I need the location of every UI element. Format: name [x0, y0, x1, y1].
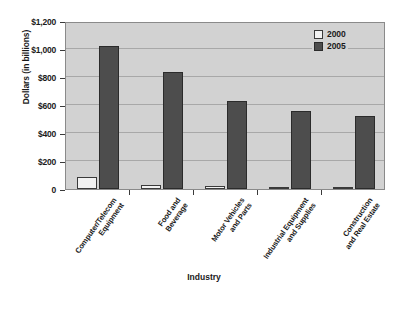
y-tick-label: $400 [4, 129, 56, 139]
bar-2005 [163, 72, 183, 189]
y-tick-label: $800 [4, 73, 56, 83]
x-category-label-line: Construction [312, 196, 374, 280]
legend-swatch [314, 30, 323, 39]
x-tick-mark [193, 190, 194, 195]
y-tick-label: $1,000 [4, 45, 56, 55]
bar-group [130, 23, 194, 189]
bar-2000 [333, 187, 353, 189]
y-tick-label: 0 [4, 185, 56, 195]
x-axis-title: Industry [0, 272, 408, 282]
y-tick-label: $200 [4, 157, 56, 167]
bar-chart: Dollars (in billions) $1,200$1,000$800$6… [0, 0, 408, 310]
bar-2000 [205, 186, 225, 189]
bar-2000 [269, 187, 289, 189]
legend-swatch [314, 42, 323, 51]
bar-2005 [99, 46, 119, 190]
legend-entry: 2005 [314, 40, 346, 52]
x-tick-mark [129, 190, 130, 195]
legend-label: 2000 [327, 29, 346, 39]
x-category-label-line: Computer/Telecom [56, 196, 118, 280]
bar-2005 [227, 101, 247, 189]
x-tick-mark [257, 190, 258, 195]
legend-label: 2005 [327, 41, 346, 51]
bar-2005 [355, 116, 375, 189]
bar-group [194, 23, 258, 189]
y-tick-label: $600 [4, 101, 56, 111]
x-tick-mark [321, 190, 322, 195]
x-category-label-line: Motor Vehicles [184, 196, 246, 280]
legend-entry: 2000 [314, 28, 346, 40]
bar-2005 [291, 111, 311, 189]
bar-2000 [141, 185, 161, 189]
x-category-label-line: Industrial Equipment [248, 196, 310, 280]
y-tick-label: $1,200 [4, 17, 56, 27]
x-category-label-line: Food and [120, 196, 182, 280]
bar-group [66, 23, 130, 189]
chart-legend: 20002005 [312, 27, 348, 53]
y-tick-mark [60, 190, 65, 191]
bar-2000 [77, 177, 97, 189]
